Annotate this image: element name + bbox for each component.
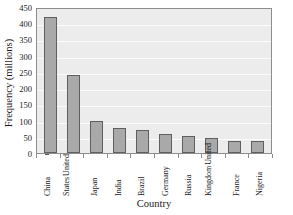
x-tick-label-line: Nigeria bbox=[255, 172, 264, 196]
x-tick-label: Japan bbox=[83, 158, 107, 196]
x-tick-label: France bbox=[225, 158, 249, 196]
x-tick-label-line: Japan bbox=[90, 178, 99, 196]
bar-france bbox=[228, 141, 241, 153]
x-tick-label: China bbox=[36, 158, 60, 196]
bar-japan bbox=[90, 121, 103, 153]
x-tick-label: India bbox=[107, 158, 131, 196]
x-tick-mark bbox=[272, 154, 273, 158]
y-tick-label: 50 bbox=[24, 134, 33, 142]
bar-slot bbox=[154, 9, 177, 153]
bars-container bbox=[37, 9, 271, 153]
y-tick-label: 200 bbox=[19, 85, 32, 93]
x-tick-label: UnitedKingdom bbox=[201, 158, 225, 196]
x-tick-label-line: United bbox=[62, 154, 71, 176]
bar-slot bbox=[246, 9, 269, 153]
x-tick-label-line: Kingdom bbox=[204, 166, 213, 196]
bar-slot bbox=[39, 9, 62, 153]
bar-india bbox=[113, 128, 126, 153]
x-tick-label-line: India bbox=[114, 180, 123, 196]
y-tick-label: 0 bbox=[28, 150, 32, 158]
bar-slot bbox=[223, 9, 246, 153]
bar-slot bbox=[177, 9, 200, 153]
bar-chart-figure: Frequency (millions) 0501001502002503003… bbox=[0, 0, 293, 215]
bar-slot bbox=[108, 9, 131, 153]
x-tick-label: Nigeria bbox=[248, 158, 272, 196]
y-tick-label: 100 bbox=[19, 118, 32, 126]
bar-nigeria bbox=[251, 141, 264, 153]
plot-area bbox=[36, 8, 272, 154]
y-tick-label: 350 bbox=[19, 36, 32, 44]
bar-united-states bbox=[67, 75, 80, 153]
bar-slot bbox=[85, 9, 108, 153]
bar-brazil bbox=[136, 130, 149, 153]
x-tick-label-line: Brazil bbox=[137, 176, 146, 196]
bar-slot bbox=[200, 9, 223, 153]
y-tick-label: 400 bbox=[19, 20, 32, 28]
x-tick-label-line: Russia bbox=[184, 175, 193, 196]
y-axis-tick-labels: 050100150200250300350400450 bbox=[12, 8, 32, 154]
x-tick-label-line: China bbox=[43, 177, 52, 196]
x-tick-label: Brazil bbox=[130, 158, 154, 196]
x-tick-label: Russia bbox=[178, 158, 202, 196]
bar-germany bbox=[159, 134, 172, 153]
y-tick-label: 300 bbox=[19, 53, 32, 61]
bar-slot bbox=[131, 9, 154, 153]
bar-china bbox=[44, 17, 57, 153]
bar-russia bbox=[182, 136, 195, 153]
y-tick-label: 450 bbox=[19, 4, 32, 12]
x-tick-label-line: France bbox=[232, 174, 241, 196]
x-tick-label-line: States bbox=[62, 177, 71, 196]
x-tick-label: UnitedStates bbox=[60, 158, 84, 196]
bar-slot bbox=[62, 9, 85, 153]
x-tick-label-line: Germany bbox=[161, 166, 170, 196]
y-tick-label: 150 bbox=[19, 101, 32, 109]
x-axis-title: Country bbox=[36, 198, 272, 210]
x-tick-label: Germany bbox=[154, 158, 178, 196]
x-tick-label-line: United bbox=[204, 143, 213, 165]
y-tick-label: 250 bbox=[19, 69, 32, 77]
x-axis-tick-labels: ChinaUnitedStatesJapanIndiaBrazilGermany… bbox=[36, 158, 272, 196]
